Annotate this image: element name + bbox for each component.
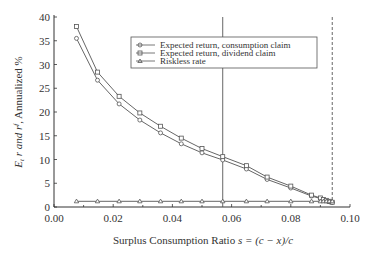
x-tick-label: 0.02 — [104, 212, 123, 224]
square-marker-icon — [96, 70, 100, 74]
circle-marker-icon — [96, 78, 100, 82]
triangle-marker-icon — [289, 199, 293, 203]
y-tick-label: 20 — [39, 106, 51, 118]
x-tick-label: 0.00 — [44, 212, 64, 224]
square-marker-icon — [117, 94, 121, 98]
series-triangle — [74, 199, 334, 203]
circle-marker-icon — [179, 142, 183, 146]
x-tick-label: 0.06 — [222, 212, 242, 224]
square-marker-icon — [74, 25, 78, 29]
square-marker-icon — [310, 193, 314, 197]
y-tick-label: 40 — [39, 11, 51, 23]
y-tick-label: 5 — [45, 177, 51, 189]
triangle-marker-icon — [244, 199, 248, 203]
y-tick-label: 15 — [39, 130, 51, 142]
square-marker-icon — [179, 136, 183, 140]
square-marker-icon — [159, 124, 163, 128]
triangle-marker-icon — [138, 199, 142, 203]
y-tick-label: 25 — [39, 82, 51, 94]
triangle-marker-icon — [265, 199, 269, 203]
y-tick-label: 35 — [39, 35, 51, 47]
chart-svg: 05101520253035400.000.020.040.060.080.10… — [0, 0, 377, 256]
x-tick-label: 0.04 — [163, 212, 183, 224]
circle-marker-icon — [117, 102, 121, 106]
square-marker-icon — [138, 111, 142, 115]
square-marker-icon — [244, 164, 248, 168]
triangle-marker-icon — [95, 199, 99, 203]
y-tick-label: 30 — [39, 59, 51, 71]
triangle-marker-icon — [200, 199, 204, 203]
triangle-marker-icon — [309, 199, 313, 203]
x-axis-title: Surplus Consumption Ratio s = (c − x)/c — [113, 234, 293, 247]
circle-marker-icon — [159, 131, 163, 135]
x-tick-label: 0.08 — [281, 212, 301, 224]
y-axis-label: Et r and rf, Annualized % — [12, 56, 26, 168]
legend: Expected return, consumption claim Expec… — [131, 37, 317, 68]
square-marker-icon — [221, 155, 225, 159]
square-marker-icon — [265, 175, 269, 179]
square-marker-icon — [289, 184, 293, 188]
circle-marker-icon — [74, 36, 78, 40]
y-tick-label: 10 — [39, 154, 51, 166]
triangle-marker-icon — [179, 199, 183, 203]
triangle-marker-icon — [117, 199, 121, 203]
triangle-marker-icon — [221, 199, 225, 203]
x-tick-label: 0.10 — [340, 212, 360, 224]
circle-marker-icon — [138, 118, 142, 122]
square-marker-icon — [200, 147, 204, 151]
chart-container: 05101520253035400.000.020.040.060.080.10… — [0, 0, 377, 256]
triangle-marker-icon — [158, 199, 162, 203]
circle-marker-icon — [200, 151, 204, 155]
legend-label-riskless: Riskless rate — [160, 56, 206, 66]
x-axis-label: Surplus Consumption Ratio s = (c − x)/c — [113, 234, 293, 247]
triangle-marker-icon — [74, 199, 78, 203]
y-axis-title: Et r and rf, Annualized % — [12, 56, 26, 168]
